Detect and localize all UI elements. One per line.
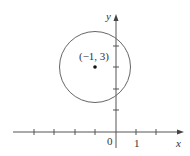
x-axis bbox=[13, 129, 184, 135]
x-axis-arrow-icon bbox=[177, 130, 184, 135]
origin-label: 0 bbox=[107, 135, 113, 147]
x-axis-label: x bbox=[175, 137, 181, 149]
coordinate-figure: (−1, 3) y x 0 1 bbox=[0, 0, 190, 156]
x-tick-label-1: 1 bbox=[134, 137, 140, 149]
y-axis bbox=[113, 14, 119, 148]
y-axis-label: y bbox=[105, 10, 111, 22]
center-label: (−1, 3) bbox=[79, 50, 109, 63]
center-point bbox=[93, 65, 97, 69]
y-axis-arrow-icon bbox=[114, 14, 119, 21]
